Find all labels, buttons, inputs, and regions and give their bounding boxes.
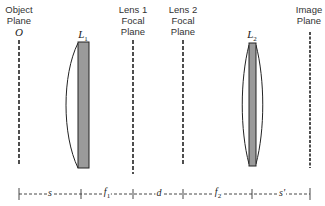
segment-s-label: s: [47, 187, 53, 198]
segment-d-label: d: [156, 187, 163, 198]
lens-l1: [66, 42, 89, 168]
optics-diagram: [0, 0, 325, 206]
segment-f2-label: f2: [214, 186, 222, 200]
distance-scale: [19, 188, 310, 200]
lens-l2: [242, 43, 263, 166]
segment-s-prime-label: s': [278, 187, 286, 198]
segment-f1-label: f1: [103, 186, 111, 200]
